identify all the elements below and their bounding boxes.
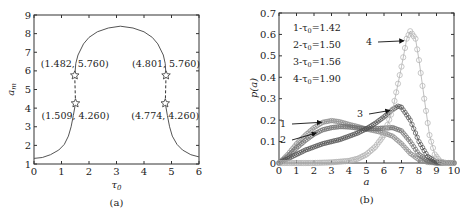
y-tick-label: 2 bbox=[25, 140, 31, 151]
x-tick-label: 7 bbox=[398, 165, 404, 176]
legend-entry: 2-τ0=1.50 bbox=[293, 39, 341, 52]
y-tick-label: 0.3 bbox=[260, 93, 276, 104]
x-tick-label: 4 bbox=[141, 166, 147, 177]
figure: 0123456123456789(1.482, 5.760)(1.509, 4.… bbox=[0, 0, 460, 216]
caption-a: (a) bbox=[110, 197, 124, 208]
curve-label: 2 bbox=[280, 134, 286, 145]
caption-b: (b) bbox=[359, 194, 373, 205]
curve-arrow bbox=[378, 41, 404, 42]
y-tick-label: 4 bbox=[25, 103, 31, 114]
x-tick-label: 10 bbox=[448, 165, 460, 176]
x-tick-label: 2 bbox=[86, 166, 92, 177]
point-annotation: (4.801, 5.760) bbox=[132, 58, 200, 69]
y-tick-label: 6 bbox=[25, 65, 31, 76]
curve-label: 4 bbox=[366, 36, 372, 47]
x-tick-label: 5 bbox=[363, 165, 369, 176]
y-axis-label: am bbox=[5, 83, 18, 96]
star-marker bbox=[161, 99, 170, 107]
curve-label: 1 bbox=[280, 118, 286, 129]
y-tick-label: 3 bbox=[25, 121, 31, 132]
y-tick-label: 0.4 bbox=[260, 72, 276, 83]
x-tick-label: 5 bbox=[168, 166, 174, 177]
y-tick-label: 1 bbox=[25, 159, 31, 170]
star-marker bbox=[71, 99, 80, 107]
y-tick-label: 9 bbox=[25, 10, 31, 21]
axes-frame bbox=[34, 15, 199, 164]
star-marker bbox=[70, 71, 79, 79]
chart-a: 0123456123456789(1.482, 5.760)(1.509, 4.… bbox=[5, 10, 202, 209]
x-tick-label: 2 bbox=[311, 165, 317, 176]
x-tick-label: 8 bbox=[416, 165, 422, 176]
x-tick-label: 9 bbox=[433, 165, 439, 176]
point-annotation: (4.774, 4.260) bbox=[131, 110, 199, 121]
star-marker bbox=[162, 71, 171, 79]
y-tick-label: 7 bbox=[25, 47, 31, 58]
y-tick-label: 0.6 bbox=[260, 29, 276, 40]
y-tick-label: 0.2 bbox=[260, 115, 276, 126]
x-axis-label: a bbox=[364, 176, 370, 187]
x-tick-label: 0 bbox=[276, 165, 282, 176]
x-tick-label: 6 bbox=[381, 165, 387, 176]
y-tick-label: 0.5 bbox=[260, 50, 276, 61]
y-tick-label: 5 bbox=[25, 84, 31, 95]
y-tick-label: 0.7 bbox=[260, 8, 276, 19]
y-tick-label: 8 bbox=[25, 28, 31, 39]
x-tick-label: 3 bbox=[328, 165, 334, 176]
y-tick-label: 0 bbox=[270, 158, 276, 169]
point-annotation: (1.509, 4.260) bbox=[42, 110, 110, 121]
x-tick-label: 0 bbox=[31, 166, 37, 177]
legend-entry: 3-τ0=1.56 bbox=[293, 56, 341, 69]
y-axis-label: p(a) bbox=[248, 78, 259, 98]
x-axis-label: τ0 bbox=[111, 179, 122, 192]
x-tick-label: 1 bbox=[58, 166, 64, 177]
legend-entry: 1-τ0=1.42 bbox=[293, 22, 341, 35]
point-annotation: (1.482, 5.760) bbox=[41, 58, 109, 69]
x-tick-label: 6 bbox=[196, 166, 202, 177]
chart-b: 01234567891000.10.20.30.40.50.60.71-τ0=1… bbox=[248, 8, 460, 206]
y-tick-label: 0.1 bbox=[260, 136, 276, 147]
legend-entry: 4-τ0=1.90 bbox=[293, 73, 341, 86]
x-tick-label: 3 bbox=[113, 166, 119, 177]
x-tick-label: 4 bbox=[346, 165, 352, 176]
curve-label: 3 bbox=[357, 108, 363, 119]
x-tick-label: 1 bbox=[293, 165, 299, 176]
